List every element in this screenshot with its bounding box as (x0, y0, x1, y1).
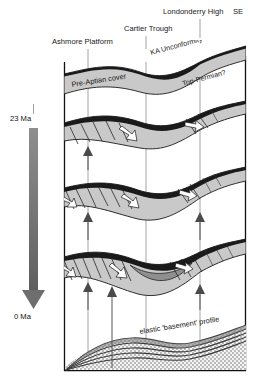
top-label-group: Ashmore Platform Cartier Trough Londonde… (52, 7, 243, 62)
geological-cross-section-figure: Ashmore Platform Cartier Trough Londonde… (0, 0, 256, 377)
label-londonderry-high: Londonderry High (163, 7, 223, 16)
uplift-head (195, 284, 205, 294)
uplift-head (83, 212, 93, 222)
panel-4-late-rift (61, 239, 246, 310)
panel-3-mid-rift (62, 167, 246, 240)
label-ka-unconformity: KA Unconformity (149, 34, 203, 57)
uplift-head (83, 282, 93, 292)
label-cartier-trough: Cartier Trough (124, 24, 173, 33)
time-axis-top-label: 23 Ma (10, 114, 32, 123)
panel-2-early-rift (64, 101, 246, 170)
uplift-head (195, 212, 205, 222)
panel-5-basement-profile: elastic 'basement' profile (66, 286, 246, 370)
panel-2-uplift-arrow (83, 146, 93, 170)
time-axis-shaft (29, 128, 38, 291)
uplift-head (83, 146, 93, 156)
uplift-head (107, 286, 117, 297)
time-axis: 23 Ma 0 Ma (10, 104, 45, 321)
label-elastic-basement-profile: elastic 'basement' profile (139, 314, 220, 335)
time-axis-bottom-label: 0 Ma (14, 312, 32, 321)
time-axis-arrowhead (22, 290, 45, 309)
label-se-direction: SE (233, 7, 243, 16)
label-ashmore-platform: Ashmore Platform (52, 37, 113, 46)
